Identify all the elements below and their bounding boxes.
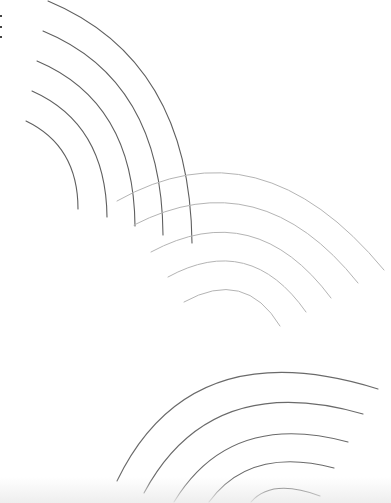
- arc-line: [144, 402, 363, 493]
- upper-left-arcs: [26, 1, 192, 243]
- arc-line: [251, 488, 320, 502]
- arc-line: [209, 462, 334, 502]
- arc-line: [32, 91, 107, 217]
- middle-arcs: [117, 173, 384, 326]
- arc-line: [174, 434, 348, 502]
- arc-line: [168, 261, 306, 312]
- lower-right-arcs: [117, 372, 378, 502]
- arc-line: [117, 372, 378, 481]
- kebab-vertical-icon: [0, 36, 2, 38]
- arc-line: [184, 289, 280, 326]
- arc-line: [117, 173, 384, 270]
- kebab-vertical-icon: [0, 26, 2, 28]
- arc-line: [151, 232, 331, 298]
- arc-line: [26, 121, 78, 209]
- more-options-label: More options: [0, 13, 1, 14]
- arc-line: [37, 61, 135, 226]
- arc-line: [134, 203, 358, 283]
- arc-line: [48, 1, 192, 243]
- more-options-button[interactable]: More options: [0, 13, 6, 41]
- arc-drawing-canvas: [0, 0, 391, 503]
- arc-line: [43, 31, 163, 235]
- kebab-vertical-icon: [0, 15, 2, 17]
